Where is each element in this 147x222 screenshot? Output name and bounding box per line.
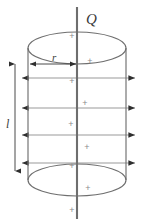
charge-marker: + (69, 161, 74, 171)
charge-marker: + (69, 76, 74, 86)
charge-marker-group: + + + + + + + + + (68, 31, 92, 215)
charge-marker: + (85, 183, 90, 193)
cylinder-field-diagram: + + + + + + + + + Q r l (0, 0, 147, 222)
charge-marker: + (69, 205, 74, 215)
field-line-group (22, 78, 135, 163)
charge-label: Q (86, 11, 97, 27)
charge-marker: + (69, 31, 74, 41)
charge-marker: + (82, 98, 87, 108)
charge-marker: + (68, 119, 73, 129)
charge-marker: + (84, 142, 89, 152)
length-label: l (6, 117, 10, 131)
charge-marker: + (87, 56, 92, 66)
figure-container: + + + + + + + + + Q r l (0, 0, 147, 222)
radius-label: r (52, 51, 57, 63)
